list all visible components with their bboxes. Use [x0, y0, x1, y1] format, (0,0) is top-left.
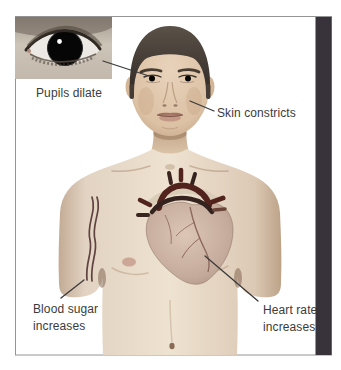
- nostril-left: [163, 104, 167, 107]
- eye-inset-image: [0, 7, 116, 79]
- heart-rate-label: Heart rate increases: [263, 302, 317, 335]
- armpit-shadow-left: [98, 268, 106, 288]
- nostril-right: [174, 104, 178, 107]
- eye-left: [149, 76, 155, 82]
- cheek-shade-left: [138, 87, 154, 115]
- sideburn-right: [206, 84, 211, 99]
- cheek-shade-right: [186, 87, 202, 115]
- nipple-left: [122, 258, 136, 267]
- blood-sugar-label: Blood sugar increases: [33, 301, 98, 334]
- eye-right: [185, 76, 191, 82]
- sternal-notch: [165, 164, 175, 170]
- tear-duct: [27, 49, 31, 53]
- skin-constricts-label: Skin constricts: [217, 105, 296, 122]
- fight-or-flight-diagram: Pupils dilate Skin constricts Blood suga…: [0, 0, 341, 370]
- navel: [169, 343, 174, 349]
- accent-bar: [316, 17, 332, 355]
- pupil-highlight: [57, 39, 62, 44]
- pupils-dilate-label: Pupils dilate: [36, 85, 102, 102]
- sideburn-left: [130, 84, 135, 99]
- armpit-shadow-right: [234, 268, 242, 288]
